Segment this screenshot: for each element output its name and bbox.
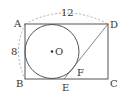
label-o: O xyxy=(55,46,63,57)
label-f: F xyxy=(77,67,84,78)
label-d: D xyxy=(110,19,118,30)
dimension-arc-ab xyxy=(19,24,26,79)
dimension-label-8: 8 xyxy=(11,46,17,57)
rectangle-abcd xyxy=(25,24,108,79)
label-c: C xyxy=(110,78,118,89)
geometry-figure: A D B C O E F 12 8 xyxy=(0,0,125,97)
dimension-label-12: 12 xyxy=(61,7,74,18)
center-dot xyxy=(51,50,54,53)
label-e: E xyxy=(62,82,69,93)
label-a: A xyxy=(13,18,22,29)
label-b: B xyxy=(16,78,23,89)
